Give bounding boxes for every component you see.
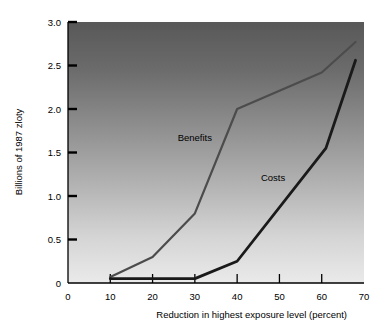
plot-background — [68, 22, 364, 283]
y-tick-label: 3.0 — [48, 17, 61, 28]
line-chart: 00.51.01.52.02.53.0 010203040506070 Bene… — [0, 0, 389, 333]
x-tick-label: 50 — [274, 291, 285, 302]
x-axis-label: Reduction in highest exposure level (per… — [156, 309, 347, 320]
y-tick-label-group: 00.51.01.52.02.53.0 — [48, 17, 61, 289]
y-axis-label: Billions of 1987 zloty — [13, 108, 24, 195]
x-tick-label: 70 — [359, 291, 370, 302]
y-tick-label: 2.5 — [48, 60, 61, 71]
x-tick-label: 60 — [316, 291, 327, 302]
y-tick-label: 1.0 — [48, 191, 61, 202]
chart-figure: 00.51.01.52.02.53.0 010203040506070 Bene… — [0, 0, 389, 333]
x-tick-label-group: 010203040506070 — [65, 291, 369, 302]
x-tick-label: 30 — [190, 291, 201, 302]
x-tick-label: 20 — [147, 291, 158, 302]
y-tick-label: 0.5 — [48, 234, 61, 245]
series-label-costs: Costs — [261, 172, 286, 183]
series-label-benefits: Benefits — [178, 132, 213, 143]
y-tick-label: 0 — [56, 278, 61, 289]
y-tick-label: 2.0 — [48, 104, 61, 115]
x-tick-label: 10 — [105, 291, 116, 302]
x-tick-label: 0 — [65, 291, 70, 302]
x-tick-label: 40 — [232, 291, 243, 302]
y-tick-label: 1.5 — [48, 147, 61, 158]
